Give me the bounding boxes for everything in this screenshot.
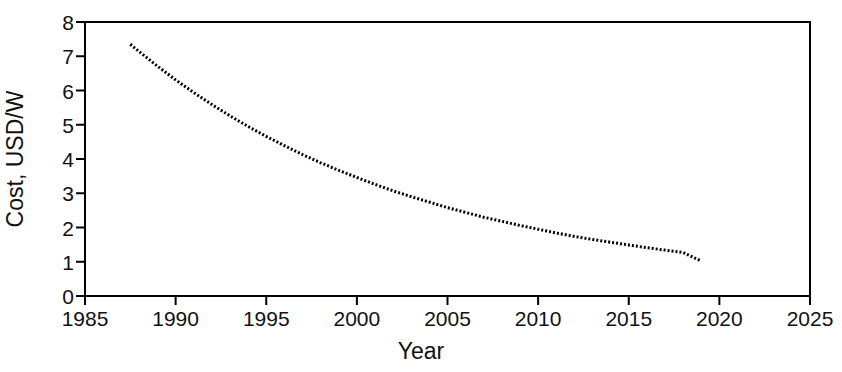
x-axis-title: Year [0,340,842,363]
plot-frame [85,22,810,296]
x-tick-label: 2015 [605,308,652,329]
y-axis-title: Cost, USD/W [4,22,27,296]
chart-figure: 012345678 198519901995200020052010201520… [0,0,842,372]
y-tick-label: 5 [30,114,74,135]
x-axis-ticks [85,296,810,305]
y-tick-label: 2 [30,217,74,238]
y-tick-label: 4 [30,149,74,170]
x-tick-label: 2000 [334,308,381,329]
y-tick-label: 6 [30,80,74,101]
x-tick-label: 1985 [62,308,109,329]
x-tick-label: 2005 [424,308,471,329]
y-axis-title-wrapper: Cost, USD/W [4,22,34,296]
x-tick-label: 2010 [515,308,562,329]
x-tick-label: 2020 [696,308,743,329]
x-tick-label: 1990 [152,308,199,329]
y-tick-label: 1 [30,251,74,272]
y-tick-label: 7 [30,46,74,67]
y-axis-ticks [76,22,85,296]
y-tick-label: 0 [30,286,74,307]
x-tick-label: 2025 [787,308,834,329]
y-tick-label: 3 [30,183,74,204]
y-tick-label: 8 [30,12,74,33]
x-tick-label: 1995 [243,308,290,329]
